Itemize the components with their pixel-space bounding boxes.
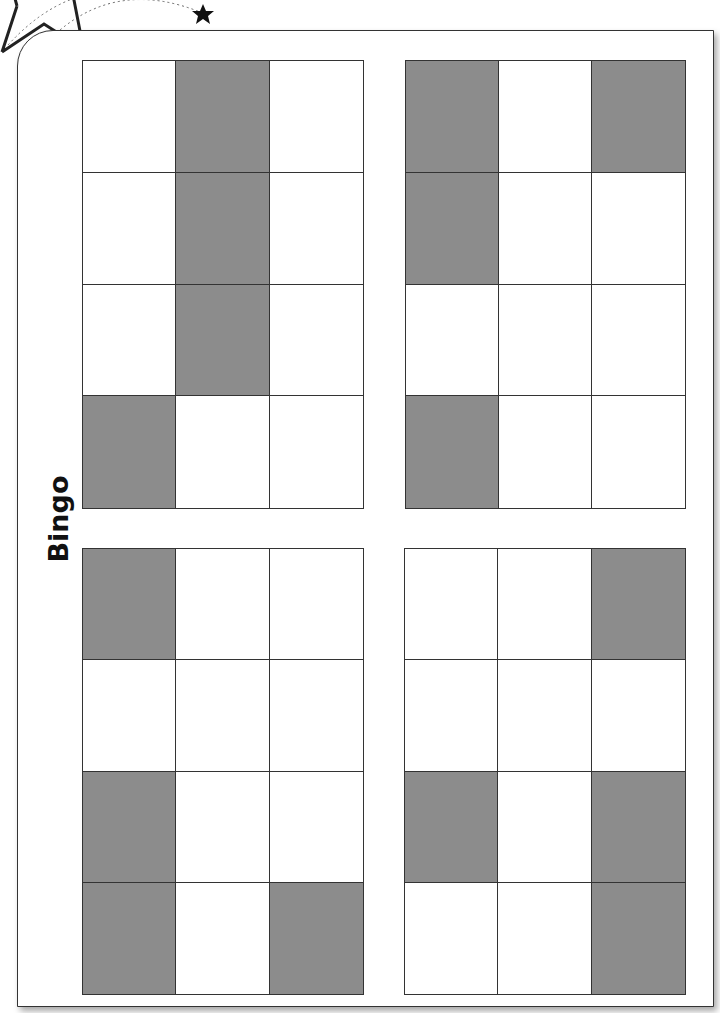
empty-cell <box>176 772 269 883</box>
shaded-cell <box>592 61 685 173</box>
empty-cell <box>499 173 592 285</box>
empty-cell <box>592 285 685 397</box>
empty-cell <box>270 61 363 173</box>
empty-cell <box>83 173 176 285</box>
shaded-cell <box>176 61 269 173</box>
shaded-cell <box>176 285 269 397</box>
empty-cell <box>405 549 498 660</box>
shaded-cell <box>406 173 499 285</box>
small-star-icon <box>192 4 214 24</box>
empty-cell <box>592 660 685 771</box>
empty-cell <box>270 285 363 397</box>
empty-cell <box>498 883 591 994</box>
page-title: Bingo <box>38 474 78 564</box>
shaded-cell <box>83 396 176 508</box>
empty-cell <box>406 285 499 397</box>
shaded-cell <box>83 883 176 994</box>
empty-cell <box>270 660 363 771</box>
shaded-cell <box>270 883 363 994</box>
shaded-cell <box>83 772 176 883</box>
empty-cell <box>592 173 685 285</box>
bingo-card-top-left <box>82 60 364 509</box>
empty-cell <box>498 549 591 660</box>
shaded-cell <box>592 883 685 994</box>
empty-cell <box>270 772 363 883</box>
empty-cell <box>498 772 591 883</box>
empty-cell <box>270 173 363 285</box>
empty-cell <box>176 396 269 508</box>
shaded-cell <box>83 549 176 660</box>
empty-cell <box>176 549 269 660</box>
empty-cell <box>499 396 592 508</box>
title-text: Bingo <box>43 476 74 563</box>
empty-cell <box>83 285 176 397</box>
empty-cell <box>405 883 498 994</box>
empty-cell <box>405 660 498 771</box>
empty-cell <box>499 61 592 173</box>
empty-cell <box>270 549 363 660</box>
empty-cell <box>270 396 363 508</box>
empty-cell <box>498 660 591 771</box>
shaded-cell <box>592 549 685 660</box>
empty-cell <box>83 61 176 173</box>
empty-cell <box>83 660 176 771</box>
empty-cell <box>499 285 592 397</box>
shaded-cell <box>405 772 498 883</box>
empty-cell <box>176 883 269 994</box>
empty-cell <box>592 396 685 508</box>
empty-cell <box>176 660 269 771</box>
bingo-card-bottom-right <box>404 548 686 995</box>
shaded-cell <box>176 173 269 285</box>
shaded-cell <box>406 61 499 173</box>
shaded-cell <box>406 396 499 508</box>
shaded-cell <box>592 772 685 883</box>
bingo-card-bottom-left <box>82 548 364 995</box>
bingo-card-top-right <box>405 60 686 509</box>
